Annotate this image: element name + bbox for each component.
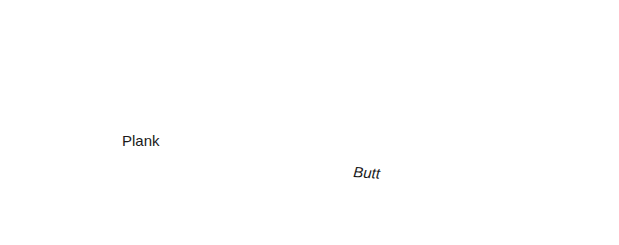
diagram-canvas: Plank Butt [0,0,619,245]
butt-block: Butt [339,11,588,223]
diagram-svg: Plank Butt [0,0,619,245]
plank-block: Plank [27,64,282,224]
butt-label: Butt [353,163,382,182]
plank-label: Plank [122,132,160,149]
